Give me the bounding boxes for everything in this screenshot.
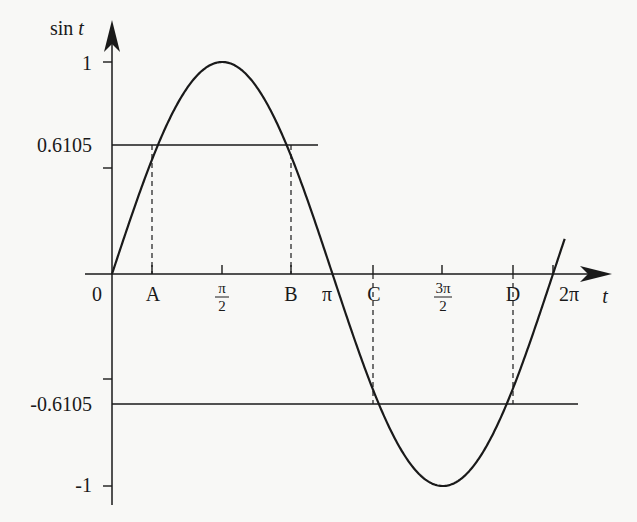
- x-tick-label-D: D: [506, 283, 520, 305]
- x-tick-label-B: B: [284, 283, 297, 305]
- x-tick-label-pi: π: [322, 283, 332, 305]
- y-tick-label-neg: -0.6105: [30, 393, 92, 415]
- x-axis-label: t: [602, 285, 608, 307]
- x-tick-label-pi-half-num: π: [218, 280, 226, 296]
- x-ticks: [152, 265, 553, 274]
- y-tick-label-pos: 0.6105: [37, 134, 92, 156]
- x-tick-label-3pi-half-num: 3π: [435, 280, 451, 296]
- y-tick-label-1: 1: [82, 52, 92, 74]
- y-axis-label: sin t: [50, 17, 84, 39]
- sine-chart: sin t 1 0.6105 -0.6105 -1 0 A π 2 B π C …: [0, 0, 637, 522]
- x-tick-label-C: C: [367, 283, 380, 305]
- x-tick-label-A: A: [146, 283, 161, 305]
- y-tick-label-minus-1: -1: [75, 474, 92, 496]
- x-tick-label-3pi-half-den: 2: [439, 298, 447, 314]
- x-tick-label-2pi: 2π: [559, 283, 579, 305]
- x-tick-label-pi-half-den: 2: [218, 298, 226, 314]
- x-tick-label-origin: 0: [92, 283, 102, 305]
